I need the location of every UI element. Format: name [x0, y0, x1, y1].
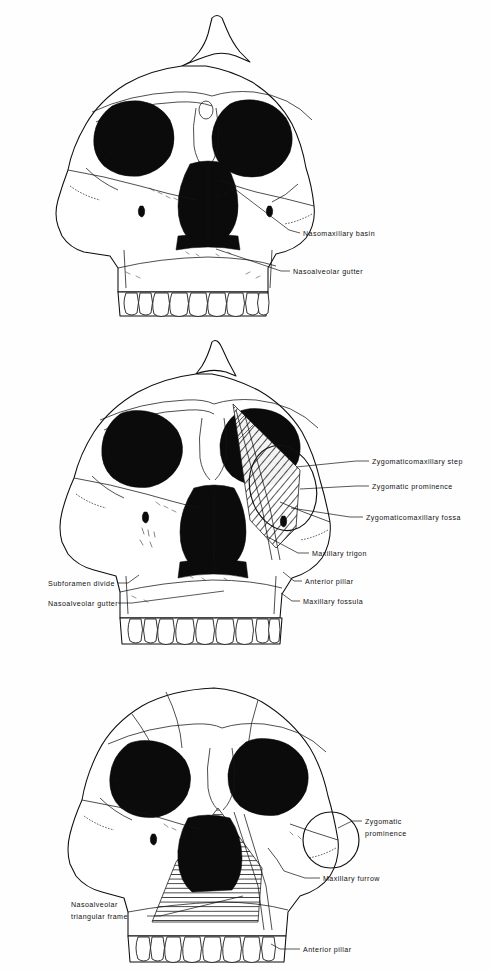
label-zygomatic-prominence: Zygomatic prominence — [372, 483, 453, 491]
label-nasoalveolar-gutter-2: Nasoalveolar gutter — [48, 600, 118, 608]
skull-1-tooth-row — [118, 292, 269, 317]
label-subforamen-divide: Subforamen divide — [48, 580, 115, 588]
label-anterior-pillar-3: Anterior pillar — [303, 946, 352, 954]
leader-line-maxillary-fossula — [281, 593, 300, 601]
skull-panel-1: Nasomaxillary basin Nasoalveolar gutter — [0, 0, 490, 325]
skull-3-tooth-row — [128, 936, 286, 963]
anatomical-figure: Nasomaxillary basin Nasoalveolar gutter — [0, 0, 490, 973]
label-zygomaticomaxillary-step: Zygomaticomaxillary step — [372, 458, 463, 466]
label-zygomatic-prominence-line2: prominence — [365, 830, 407, 838]
skull-2-cranium — [60, 340, 330, 644]
skull-1-cranium — [56, 16, 314, 317]
label-nasoalveolar-gutter: Nasoalveolar gutter — [293, 268, 363, 276]
label-maxillary-trigon: Maxillary trigon — [312, 550, 367, 558]
label-maxillary-fossula: Maxillary fossula — [303, 598, 363, 606]
label-maxillary-furrow: Maxillary furrow — [323, 875, 380, 883]
label-anterior-pillar: Anterior pillar — [305, 578, 354, 586]
skull-panel-3: Zygomatic prominence Maxillary furrow Na… — [0, 660, 490, 973]
label-zygomatic-prominence-line1: Zygomatic — [365, 818, 402, 826]
skull-illustration-2: Zygomaticomaxillary step Zygomatic promi… — [0, 325, 490, 660]
label-zygomaticomaxillary-fossa: Zygomaticomaxillary fossa — [366, 514, 461, 522]
skull-2-tooth-row — [120, 618, 282, 645]
label-nasoalveolar-triangular-frame-line2: triangular frame — [71, 913, 128, 921]
leader-line-zygomatic-prominence-3 — [338, 821, 362, 828]
label-nasomaxillary-basin: Nasomaxillary basin — [303, 230, 375, 238]
label-nasoalveolar-triangular-frame-line1: Nasoalveolar — [71, 901, 118, 909]
skull-illustration-3: Zygomatic prominence Maxillary furrow Na… — [0, 660, 490, 973]
skull-3-cranium — [68, 688, 338, 963]
skull-panel-2: Zygomaticomaxillary step Zygomatic promi… — [0, 325, 490, 660]
skull-illustration-1: Nasomaxillary basin Nasoalveolar gutter — [0, 0, 490, 325]
